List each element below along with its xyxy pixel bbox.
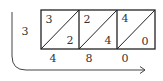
result-digit-2: 8 (84, 53, 94, 64)
result-digit-3: 0 (120, 53, 130, 64)
multiplier-left: 3 (20, 26, 30, 37)
lattice-diagram: 3 3 2 4 2 4 8 4 0 0 (0, 0, 163, 81)
cell-1-bottom-digit: 2 (65, 35, 75, 46)
cell-3-top-digit: 4 (120, 13, 130, 24)
lattice-grid (41, 10, 155, 49)
cell-3-bottom-digit: 0 (140, 36, 150, 47)
result-digit-1: 4 (48, 53, 58, 64)
cell-2-bottom-digit: 4 (103, 35, 113, 46)
cell-2-top-digit: 2 (82, 14, 92, 25)
cell-1-top-digit: 3 (44, 14, 54, 25)
